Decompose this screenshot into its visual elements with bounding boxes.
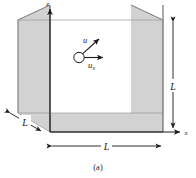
z-axis-label: z	[45, 0, 49, 8]
gas-particle-group: u ux	[74, 35, 103, 71]
velocity-ux-label: ux	[88, 60, 96, 71]
figure-caption: (a)	[93, 162, 103, 172]
x-axis-label: x	[183, 129, 188, 137]
depth-dimension-label: L	[21, 117, 28, 128]
height-dimension-label: L	[169, 81, 176, 92]
left-face	[18, 5, 50, 113]
velocity-ux-subscript: x	[92, 65, 96, 71]
dimension-height: L	[168, 22, 179, 128]
width-dimension-label: L	[103, 141, 110, 152]
dimension-width: L	[52, 139, 161, 152]
figure-canvas: z x u ux L	[0, 0, 196, 178]
bottom-face	[18, 113, 163, 132]
velocity-u-label: u	[83, 35, 87, 45]
right-face	[131, 5, 163, 113]
physics-box-figure: z x u ux L	[0, 0, 196, 178]
